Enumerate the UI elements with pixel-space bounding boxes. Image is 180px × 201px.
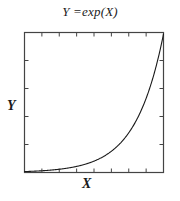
y-axis-ticks-right <box>160 33 164 173</box>
plot-canvas <box>0 0 180 201</box>
exponential-curve <box>25 34 164 172</box>
axes-frame <box>25 33 164 173</box>
exponential-plot-figure: Y =exp(X) Y X <box>0 0 180 201</box>
plot-frame <box>25 33 164 173</box>
y-axis-label: Y <box>7 98 16 114</box>
x-axis-label: X <box>82 176 91 192</box>
